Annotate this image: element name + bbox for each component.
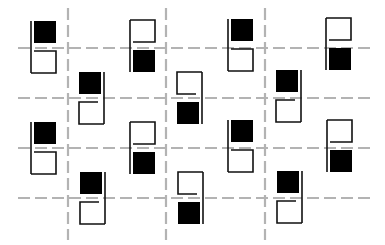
square-unit xyxy=(276,70,301,122)
filled-square xyxy=(34,122,56,144)
open-square xyxy=(31,152,56,174)
open-square xyxy=(228,150,253,172)
open-square xyxy=(130,20,155,42)
open-square xyxy=(228,49,253,71)
square-unit xyxy=(326,18,351,70)
filled-square xyxy=(133,152,155,174)
open-square xyxy=(177,72,202,94)
filled-square xyxy=(231,120,253,142)
filled-square xyxy=(80,172,102,194)
filled-square xyxy=(79,72,101,94)
pattern-canvas xyxy=(0,0,385,245)
open-square xyxy=(326,18,351,40)
open-square xyxy=(31,51,56,73)
open-square xyxy=(277,201,302,223)
open-square xyxy=(79,102,104,124)
open-square xyxy=(276,100,301,122)
square-unit xyxy=(327,120,352,172)
filled-square xyxy=(277,171,299,193)
square-unit xyxy=(228,19,253,71)
open-square xyxy=(178,172,203,194)
filled-square xyxy=(231,19,253,41)
open-square xyxy=(327,120,352,142)
filled-square xyxy=(178,202,200,224)
filled-square xyxy=(34,21,56,43)
square-unit xyxy=(228,120,253,172)
open-square xyxy=(130,122,155,144)
square-unit xyxy=(130,20,155,72)
filled-square xyxy=(177,102,199,124)
filled-square xyxy=(276,70,298,92)
filled-square xyxy=(133,50,155,72)
filled-square xyxy=(330,150,352,172)
filled-square xyxy=(329,48,351,70)
open-square xyxy=(80,202,105,224)
